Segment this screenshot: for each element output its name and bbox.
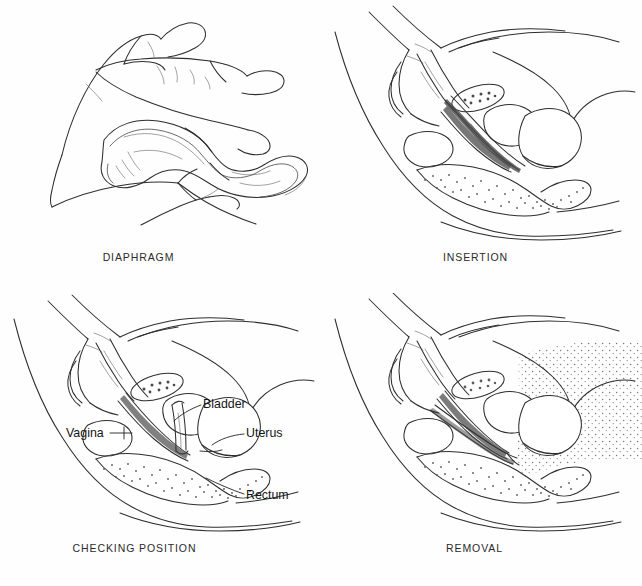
panel-caption-diaphragm: DIAPHRAGM: [0, 251, 321, 263]
diaphragm-ring-icon: [101, 120, 307, 197]
hand-icon: [51, 23, 285, 225]
rectum-shape: [96, 454, 270, 498]
annotation-rectum: Rectum: [206, 478, 289, 502]
label-vagina: Vagina: [66, 426, 104, 440]
panel-caption-insertion: INSERTION: [321, 251, 642, 263]
diaphragm-illustration: [0, 0, 321, 255]
panel-checking: Bladder Vagina Uterus Rectum: [0, 293, 321, 586]
panel-removal: REMOVAL: [321, 293, 642, 586]
panel-diaphragm: DIAPHRAGM: [0, 0, 321, 293]
panel-insertion: INSERTION: [321, 0, 642, 293]
rectum-stipple: [424, 174, 584, 210]
diaphragm-texture-icon: [116, 152, 140, 178]
panel-grid: DIAPHRAGM: [0, 0, 642, 586]
rectum-stipple: [424, 461, 584, 497]
label-rectum: Rectum: [246, 488, 289, 502]
pelvis-sagittal-icon: [83, 321, 314, 505]
rectum-stipple: [103, 463, 263, 499]
hand-icon: [369, 6, 565, 126]
panel-caption-removal: REMOVAL: [321, 542, 642, 554]
label-bladder: Bladder: [203, 397, 246, 411]
pelvis-sagittal-icon: [404, 32, 635, 216]
figure-sheet: DIAPHRAGM: [0, 0, 642, 586]
label-uterus: Uterus: [246, 426, 283, 440]
checking-position-illustration: Bladder Vagina Uterus Rectum: [0, 293, 321, 548]
removal-illustration: [321, 293, 642, 548]
panel-caption-checking: CHECKING POSITION: [0, 542, 321, 554]
insertion-illustration: [321, 0, 642, 255]
